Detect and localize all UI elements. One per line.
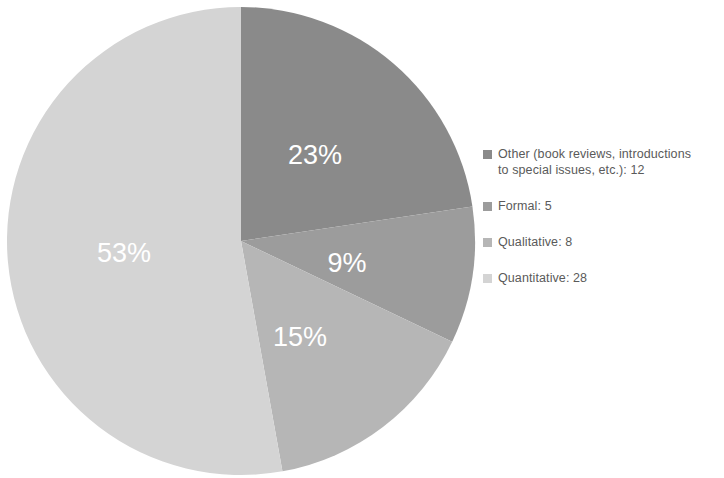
- legend-item-label: Quantitative: 28: [498, 270, 721, 286]
- legend-item[interactable]: Qualitative: 8: [483, 234, 721, 250]
- legend-item-label: Qualitative: 8: [498, 234, 721, 250]
- legend-swatch-icon: [483, 202, 492, 211]
- pie-chart-svg: 23%9%15%53%: [0, 0, 482, 478]
- pie-chart-plot-area: 23%9%15%53%: [0, 0, 482, 478]
- legend-item[interactable]: Other (book reviews, introductions to sp…: [483, 146, 721, 178]
- pie-slice-data-label: 23%: [288, 140, 342, 170]
- pie-chart-figure: 23%9%15%53% Other (book reviews, introdu…: [0, 0, 724, 478]
- legend-item-label: Formal: 5: [498, 198, 721, 214]
- pie-slice[interactable]: [241, 7, 472, 241]
- pie-slice-data-label: 9%: [327, 248, 366, 278]
- chart-legend: Other (book reviews, introductions to sp…: [483, 146, 721, 306]
- legend-swatch-icon: [483, 150, 492, 159]
- legend-item[interactable]: Quantitative: 28: [483, 270, 721, 286]
- legend-item[interactable]: Formal: 5: [483, 198, 721, 214]
- pie-slice-data-label: 53%: [97, 238, 151, 268]
- pie-slice-data-label: 15%: [273, 322, 327, 352]
- pie-slice-group: [7, 7, 475, 475]
- legend-swatch-icon: [483, 238, 492, 247]
- legend-item-label: Other (book reviews, introductions to sp…: [498, 146, 721, 178]
- legend-swatch-icon: [483, 274, 492, 283]
